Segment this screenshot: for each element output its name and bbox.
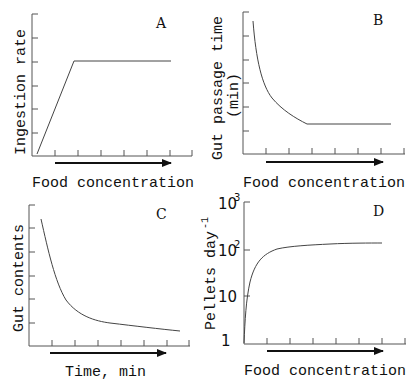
panel-d-x-axis xyxy=(244,338,406,344)
panel-c-ylabel: Gut contents xyxy=(11,224,28,332)
panel-b-y-axis xyxy=(243,12,249,154)
svg-text:Pellets day: Pellets day xyxy=(203,231,220,330)
panel-c-xlabel: Time, min xyxy=(65,364,146,381)
panel-a: A Ingestion rate Food concentration xyxy=(13,14,194,192)
panel-b-ylabel-line2: (min) xyxy=(226,73,243,118)
panel-a-xlabel: Food concentration xyxy=(32,175,194,192)
panel-d-curve xyxy=(244,243,382,343)
panel-a-ylabel: Ingestion rate xyxy=(13,29,30,155)
svg-text:2: 2 xyxy=(234,239,240,250)
panel-b-curve xyxy=(253,21,391,124)
panel-a-curve xyxy=(37,61,171,154)
panel-c-letter: C xyxy=(156,206,167,222)
panel-b-letter: B xyxy=(373,12,383,28)
svg-text:3: 3 xyxy=(234,192,240,203)
panel-a-letter: A xyxy=(155,15,167,31)
panel-b-xlabel: Food concentration xyxy=(243,175,405,192)
panel-c-y-axis xyxy=(29,205,35,346)
panel-d-ylabel: Pellets day -1 xyxy=(200,217,220,330)
panel-a-x-axis xyxy=(32,150,192,156)
figure: A Ingestion rate Food concentration B Gu… xyxy=(0,0,416,382)
panel-d-ytick-100: 10 2 xyxy=(218,239,240,260)
panel-b-x-axis xyxy=(243,148,405,154)
svg-text:-1: -1 xyxy=(200,217,211,229)
panel-d-xlabel: Food concentration xyxy=(244,363,406,380)
panel-d-ytick-10: 10 xyxy=(218,288,237,306)
panel-c-curve xyxy=(41,219,180,331)
panel-d-ytick-1000: 10 3 xyxy=(218,192,240,213)
panel-a-y-axis xyxy=(32,14,38,156)
panel-c: C Gut contents Time, min xyxy=(11,205,190,381)
panel-b: B Gut passage time (min) Food concentrat… xyxy=(210,12,405,192)
panel-d-ytick-1: 1 xyxy=(221,332,231,350)
panel-d-letter: D xyxy=(373,203,384,219)
panel-d: D 1 10 10 2 10 3 Pellets day -1 Food con… xyxy=(200,192,406,380)
panel-c-x-axis xyxy=(29,340,190,346)
panel-b-ylabel-line1: Gut passage time xyxy=(210,16,227,160)
